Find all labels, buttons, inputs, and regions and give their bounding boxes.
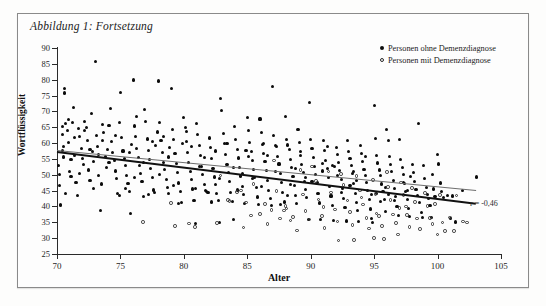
data-point-with-dementia bbox=[346, 199, 350, 203]
data-point-no-dementia bbox=[78, 172, 81, 175]
data-point-with-dementia bbox=[455, 194, 459, 198]
data-point-no-dementia bbox=[342, 197, 345, 200]
data-point-no-dementia bbox=[321, 162, 324, 165]
data-point-no-dementia bbox=[260, 131, 263, 134]
data-point-no-dementia bbox=[62, 155, 65, 158]
data-point-no-dementia bbox=[421, 216, 424, 219]
data-point-with-dementia bbox=[304, 209, 308, 213]
x-tick-label: 95 bbox=[359, 261, 389, 271]
data-point-no-dementia bbox=[321, 169, 324, 172]
data-point-no-dementia bbox=[142, 195, 145, 198]
data-point-with-dementia bbox=[431, 222, 435, 226]
data-point-no-dementia bbox=[96, 145, 99, 148]
data-point-no-dementia bbox=[242, 193, 245, 196]
x-tick-label: 70 bbox=[42, 261, 72, 271]
data-point-no-dementia bbox=[276, 155, 279, 158]
data-point-no-dementia bbox=[295, 202, 298, 205]
data-point-no-dementia bbox=[180, 201, 183, 204]
data-point-no-dementia bbox=[345, 219, 348, 222]
data-point-no-dementia bbox=[394, 195, 397, 198]
data-point-no-dementia bbox=[402, 173, 405, 176]
data-point-no-dementia bbox=[436, 153, 439, 156]
data-point-with-dementia bbox=[272, 159, 276, 163]
data-point-no-dementia bbox=[110, 140, 113, 143]
data-point-no-dementia bbox=[324, 159, 327, 162]
data-point-no-dementia bbox=[270, 204, 273, 207]
data-point-no-dementia bbox=[114, 134, 117, 137]
data-point-no-dementia bbox=[153, 191, 156, 194]
data-point-with-dementia bbox=[360, 196, 364, 200]
data-point-no-dementia bbox=[269, 197, 272, 200]
data-point-no-dementia bbox=[290, 166, 293, 169]
data-point-no-dementia bbox=[299, 150, 302, 153]
data-point-no-dementia bbox=[115, 177, 118, 180]
data-point-no-dementia bbox=[361, 160, 364, 163]
data-point-with-dementia bbox=[436, 233, 440, 237]
data-point-no-dementia bbox=[219, 97, 222, 100]
data-point-no-dementia bbox=[192, 199, 195, 202]
data-point-no-dementia bbox=[359, 144, 362, 147]
x-axis-title: Alter bbox=[57, 272, 501, 283]
data-point-no-dementia bbox=[420, 211, 423, 214]
data-point-no-dementia bbox=[214, 149, 217, 152]
data-point-no-dementia bbox=[106, 148, 109, 151]
plot-area bbox=[57, 48, 501, 254]
data-point-no-dementia bbox=[217, 199, 220, 202]
data-point-no-dementia bbox=[128, 151, 131, 154]
data-point-no-dementia bbox=[133, 176, 136, 179]
data-point-no-dementia bbox=[140, 180, 143, 183]
data-point-no-dementia bbox=[417, 122, 420, 125]
x-tick-mark bbox=[57, 254, 58, 259]
data-point-no-dementia bbox=[177, 202, 180, 205]
data-point-no-dementia bbox=[390, 170, 393, 173]
data-point-no-dementia bbox=[97, 174, 100, 177]
data-point-no-dementia bbox=[384, 210, 387, 213]
chart-legend: Personen ohne Demenzdiagnose Personen mi… bbox=[376, 42, 496, 66]
data-point-with-dementia bbox=[385, 170, 389, 174]
data-point-no-dementia bbox=[151, 140, 154, 143]
data-point-no-dementia bbox=[189, 170, 192, 173]
data-point-no-dementia bbox=[323, 149, 326, 152]
data-point-with-dementia bbox=[289, 219, 293, 223]
data-point-no-dementia bbox=[208, 136, 211, 139]
data-point-no-dementia bbox=[195, 122, 198, 125]
data-point-no-dementia bbox=[209, 146, 212, 149]
data-point-no-dementia bbox=[248, 141, 251, 144]
data-point-with-dementia bbox=[410, 186, 414, 190]
data-point-no-dementia bbox=[215, 192, 218, 195]
data-point-no-dementia bbox=[348, 157, 351, 160]
data-point-no-dementia bbox=[393, 199, 396, 202]
data-point-no-dementia bbox=[385, 128, 388, 131]
data-point-no-dementia bbox=[412, 171, 415, 174]
data-point-no-dementia bbox=[475, 175, 478, 178]
data-point-no-dementia bbox=[67, 118, 70, 121]
data-point-no-dementia bbox=[172, 138, 175, 141]
data-point-no-dementia bbox=[331, 164, 334, 167]
data-point-with-dementia bbox=[169, 201, 173, 205]
data-point-no-dementia bbox=[262, 152, 265, 155]
data-point-no-dementia bbox=[173, 152, 176, 155]
data-point-no-dementia bbox=[393, 187, 396, 190]
y-tick-label: 85 bbox=[4, 59, 50, 69]
data-point-with-dementia bbox=[377, 214, 381, 218]
data-point-no-dementia bbox=[431, 173, 434, 176]
data-point-no-dementia bbox=[86, 139, 89, 142]
data-point-with-dementia bbox=[391, 213, 395, 217]
data-point-no-dementia bbox=[365, 181, 368, 184]
data-point-no-dementia bbox=[179, 190, 182, 193]
data-point-with-dementia bbox=[374, 192, 378, 196]
data-point-no-dementia bbox=[201, 173, 204, 176]
data-point-with-dementia bbox=[398, 206, 402, 210]
data-point-no-dementia bbox=[244, 149, 247, 152]
data-point-no-dementia bbox=[58, 184, 61, 187]
data-point-with-dementia bbox=[348, 210, 352, 214]
data-point-no-dementia bbox=[159, 139, 162, 142]
data-point-no-dementia bbox=[87, 168, 90, 171]
y-tick-label: 70 bbox=[4, 106, 50, 116]
open-circle-icon bbox=[376, 58, 388, 62]
data-point-no-dementia bbox=[94, 60, 97, 63]
data-point-no-dementia bbox=[101, 139, 104, 142]
y-tick-label: 40 bbox=[4, 201, 50, 211]
data-point-no-dementia bbox=[291, 175, 294, 178]
data-point-no-dementia bbox=[132, 78, 135, 81]
